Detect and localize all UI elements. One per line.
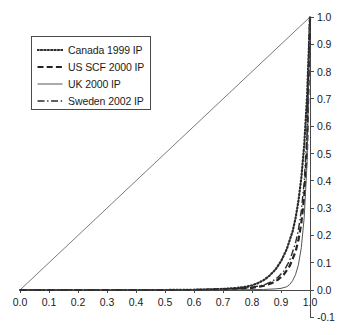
y-tick-label: 1.0 xyxy=(317,11,331,23)
y-tick-label: 0.7 xyxy=(317,93,331,105)
x-tick-label: 0.5 xyxy=(158,296,172,308)
x-tick-label: 0.2 xyxy=(71,296,85,308)
legend-label: UK 2000 IP xyxy=(68,78,121,90)
legend-line-sample-icon xyxy=(37,78,63,90)
y-tick-label: 0.0 xyxy=(317,284,331,296)
y-tick-label: 0.3 xyxy=(317,202,331,214)
legend-line-sample-icon xyxy=(37,95,63,107)
legend-entry: UK 2000 IP xyxy=(32,75,150,93)
y-tick-label: 0.8 xyxy=(317,66,331,78)
lorenz-curve-chart: 0.00.10.20.30.40.50.60.70.80.91.0 1.00.9… xyxy=(0,0,349,335)
legend-entry: US SCF 2000 IP xyxy=(32,58,150,76)
legend-line-sample-icon xyxy=(37,61,63,73)
x-tick-label: 0.6 xyxy=(187,296,201,308)
y-tick-label: 0.5 xyxy=(317,148,331,160)
chart-legend: Canada 1999 IPUS SCF 2000 IPUK 2000 IPSw… xyxy=(31,36,151,110)
x-tick-label: 0.3 xyxy=(100,296,114,308)
y-tick-label: 0.4 xyxy=(317,175,331,187)
x-tick-label: 0.4 xyxy=(129,296,143,308)
legend-label: Canada 1999 IP xyxy=(68,44,143,56)
x-tick-label: 0.8 xyxy=(245,296,259,308)
legend-line-sample-icon xyxy=(37,44,63,56)
y-tick-label: 0.9 xyxy=(317,38,331,50)
x-tick-label: 1.0 xyxy=(303,296,317,308)
y-tick-label: 0.1 xyxy=(317,257,331,269)
legend-entry: Canada 1999 IP xyxy=(32,41,150,59)
legend-entry: Sweden 2002 IP xyxy=(32,92,150,110)
legend-label: US SCF 2000 IP xyxy=(68,61,144,73)
x-tick-label: 0.9 xyxy=(274,296,288,308)
x-tick-label: 0.0 xyxy=(13,296,27,308)
y-tick-label: 0.6 xyxy=(317,120,331,132)
y-tick-label: 0.2 xyxy=(317,229,331,241)
y-tick-label: -0.1 xyxy=(317,311,335,323)
x-tick-label: 0.1 xyxy=(42,296,56,308)
x-tick-label: 0.7 xyxy=(216,296,230,308)
legend-label: Sweden 2002 IP xyxy=(68,95,144,107)
